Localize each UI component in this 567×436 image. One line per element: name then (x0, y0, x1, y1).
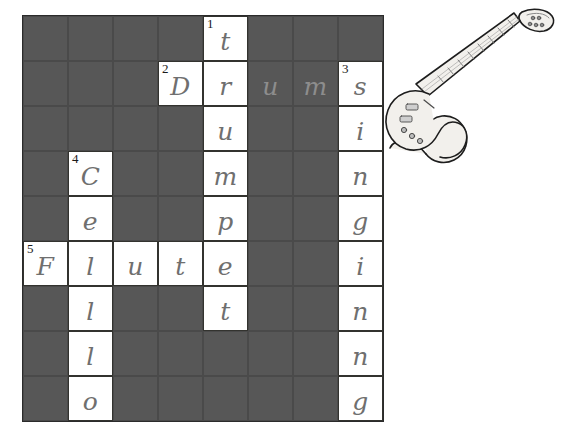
crossword-cell-r7c7 (293, 286, 338, 331)
crossword-cell-r1c6 (248, 16, 293, 61)
crossword-cell-r2c7: m (293, 61, 338, 106)
handwritten-letter: n (339, 295, 382, 329)
handwritten-letter: g (339, 205, 382, 239)
handwritten-letter: o (69, 385, 112, 419)
crossword-cell-r4c2[interactable]: 4C (68, 151, 113, 196)
crossword-cell-r5c4 (158, 196, 203, 241)
handwritten-letter: l (69, 340, 112, 374)
crossword-cell-r6c8[interactable]: i (338, 241, 383, 286)
handwritten-letter: e (69, 205, 112, 239)
crossword-cell-r9c5 (203, 376, 248, 421)
crossword-cell-r4c6 (248, 151, 293, 196)
crossword-cell-r4c1 (23, 151, 68, 196)
handwritten-letter: p (204, 205, 247, 239)
crossword-cell-r8c8[interactable]: n (338, 331, 383, 376)
crossword-cell-r9c2[interactable]: o (68, 376, 113, 421)
crossword-cell-r2c6: u (248, 61, 293, 106)
crossword-cell-r4c7 (293, 151, 338, 196)
handwritten-letter: m (294, 70, 337, 104)
crossword-cell-r6c1[interactable]: 5F (23, 241, 68, 286)
handwritten-letter: C (69, 160, 112, 194)
crossword-cell-r8c3 (113, 331, 158, 376)
crossword-cell-r2c1 (23, 61, 68, 106)
crossword-cell-r7c2[interactable]: l (68, 286, 113, 331)
crossword-cell-r8c2[interactable]: l (68, 331, 113, 376)
crossword-cell-r7c1 (23, 286, 68, 331)
crossword-cell-r5c2[interactable]: e (68, 196, 113, 241)
crossword-cell-r3c4 (158, 106, 203, 151)
crossword-cell-r7c4 (158, 286, 203, 331)
crossword-cell-r9c1 (23, 376, 68, 421)
crossword-cell-r8c5 (203, 331, 248, 376)
crossword-cell-r7c6 (248, 286, 293, 331)
crossword-cell-r2c2 (68, 61, 113, 106)
handwritten-letter: u (114, 250, 157, 284)
handwritten-letter: u (204, 115, 247, 149)
electric-guitar-illustration (372, 4, 562, 184)
crossword-cell-r4c5[interactable]: m (203, 151, 248, 196)
crossword-cell-r9c8[interactable]: g (338, 376, 383, 421)
handwritten-letter: g (339, 385, 382, 419)
crossword-cell-r6c3[interactable]: u (113, 241, 158, 286)
crossword-cell-r4c3 (113, 151, 158, 196)
crossword-cell-r3c3 (113, 106, 158, 151)
crossword-cell-r2c3 (113, 61, 158, 106)
crossword-cell-r6c5[interactable]: e (203, 241, 248, 286)
crossword-grid[interactable]: 1t2Drum3sui4Cmnepg5Fluteiltnlnog (22, 15, 384, 422)
crossword-cell-r2c4[interactable]: 2D (158, 61, 203, 106)
crossword-cell-r1c4 (158, 16, 203, 61)
handwritten-letter: u (249, 70, 292, 104)
handwritten-letter: r (204, 70, 247, 104)
crossword-cell-r1c2 (68, 16, 113, 61)
crossword-cell-r7c5[interactable]: t (203, 286, 248, 331)
crossword-cell-r8c6 (248, 331, 293, 376)
crossword-cell-r3c6 (248, 106, 293, 151)
crossword-cell-r9c6 (248, 376, 293, 421)
crossword-cell-r4c4 (158, 151, 203, 196)
crossword-cell-r5c8[interactable]: g (338, 196, 383, 241)
crossword-cell-r1c7 (293, 16, 338, 61)
crossword-cell-r3c7 (293, 106, 338, 151)
crossword-cell-r5c5[interactable]: p (203, 196, 248, 241)
crossword-cell-r9c4 (158, 376, 203, 421)
crossword-cell-r8c7 (293, 331, 338, 376)
handwritten-letter: m (204, 160, 247, 194)
crossword-cell-r6c2[interactable]: l (68, 241, 113, 286)
crossword-cell-r9c7 (293, 376, 338, 421)
handwritten-letter: e (204, 250, 247, 284)
crossword-cell-r5c7 (293, 196, 338, 241)
worksheet-page: 1t2Drum3sui4Cmnepg5Fluteiltnlnog (0, 0, 567, 436)
handwritten-letter: t (204, 25, 247, 59)
handwritten-letter: t (204, 295, 247, 329)
handwritten-letter: D (159, 70, 202, 104)
crossword-cell-r9c3 (113, 376, 158, 421)
crossword-cell-r3c2 (68, 106, 113, 151)
handwritten-letter: l (69, 295, 112, 329)
crossword-cell-r1c5[interactable]: 1t (203, 16, 248, 61)
crossword-cell-r8c1 (23, 331, 68, 376)
crossword-cell-r6c7 (293, 241, 338, 286)
crossword-cell-r5c6 (248, 196, 293, 241)
crossword-cell-r7c8[interactable]: n (338, 286, 383, 331)
crossword-cell-r2c5[interactable]: r (203, 61, 248, 106)
handwritten-letter: t (159, 250, 202, 284)
crossword-cell-r3c1 (23, 106, 68, 151)
crossword-cell-r8c4 (158, 331, 203, 376)
crossword-cell-r6c6 (248, 241, 293, 286)
crossword-cell-r5c1 (23, 196, 68, 241)
handwritten-letter: l (69, 250, 112, 284)
crossword-cell-r5c3 (113, 196, 158, 241)
crossword-cell-r3c5[interactable]: u (203, 106, 248, 151)
handwritten-letter: F (24, 250, 67, 284)
handwritten-letter: i (339, 250, 382, 284)
crossword-cell-r6c4[interactable]: t (158, 241, 203, 286)
crossword-cell-r1c1 (23, 16, 68, 61)
handwritten-letter: n (339, 340, 382, 374)
crossword-cell-r1c3 (113, 16, 158, 61)
crossword-cell-r7c3 (113, 286, 158, 331)
